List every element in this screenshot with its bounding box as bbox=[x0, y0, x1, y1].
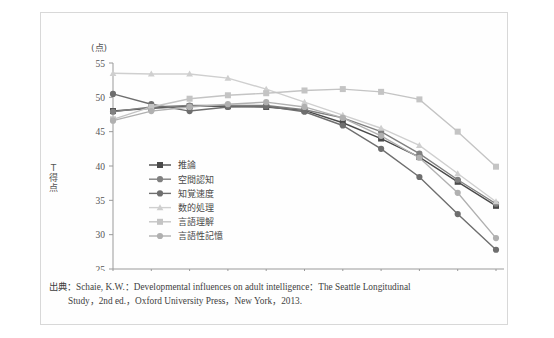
y-tick-label: 55 bbox=[96, 59, 106, 69]
legend-label-1: 空間認知 bbox=[178, 174, 214, 185]
legend-label-0: 推論 bbox=[178, 159, 196, 170]
y-axis-unit-label: (点) bbox=[91, 43, 107, 53]
data-point bbox=[493, 164, 499, 170]
line-chart: 253035404550552532394653606774818895 推論空… bbox=[41, 13, 509, 271]
series-line-1 bbox=[113, 106, 496, 204]
data-point bbox=[455, 211, 461, 217]
y-tick-label: 45 bbox=[96, 127, 106, 137]
legend-label-4: 言語理解 bbox=[178, 216, 214, 227]
y-tick-label: 50 bbox=[96, 93, 106, 103]
y-tick-label: 25 bbox=[96, 265, 106, 272]
data-point bbox=[493, 235, 499, 241]
data-point bbox=[301, 104, 307, 110]
data-point bbox=[416, 96, 422, 102]
data-point bbox=[187, 96, 193, 102]
legend-item-1[interactable]: 空間認知 bbox=[149, 174, 214, 185]
legend-item-2[interactable]: 知覚速度 bbox=[149, 188, 214, 199]
data-point bbox=[110, 118, 116, 124]
data-point bbox=[340, 115, 346, 121]
data-point bbox=[263, 90, 269, 96]
legend-marker-5 bbox=[157, 233, 163, 239]
data-point bbox=[110, 91, 116, 97]
source-line-1: 出典：Schaie, K.W.：Developmental influences… bbox=[49, 282, 411, 292]
plot-area: 253035404550552532394653606774818895 推論空… bbox=[41, 13, 509, 271]
data-point bbox=[416, 174, 422, 180]
legend-item-4[interactable]: 言語理解 bbox=[149, 216, 214, 227]
data-point bbox=[263, 99, 269, 105]
legend-item-5[interactable]: 言語性記憶 bbox=[149, 230, 223, 241]
data-point bbox=[455, 129, 461, 135]
data-point bbox=[378, 133, 384, 139]
data-point bbox=[493, 247, 499, 253]
figure-container: T 得 点 2530354045505525323946536067748188… bbox=[40, 12, 508, 325]
legend-item-0[interactable]: 推論 bbox=[149, 159, 196, 170]
data-point bbox=[378, 146, 384, 152]
axis-labels-group: (点)(歳)年齢 bbox=[91, 43, 509, 271]
legend-marker-4 bbox=[157, 219, 163, 225]
y-tick-label: 40 bbox=[96, 162, 106, 172]
legend-marker-0 bbox=[157, 162, 163, 168]
data-point bbox=[148, 108, 154, 114]
data-point bbox=[455, 190, 461, 196]
series-line-2 bbox=[113, 94, 496, 250]
legend-marker-1 bbox=[157, 176, 163, 182]
data-point bbox=[110, 109, 116, 115]
data-point bbox=[340, 86, 346, 92]
data-point bbox=[225, 92, 231, 98]
data-point bbox=[187, 104, 193, 110]
chart-legend: 推論空間認知知覚速度数的処理言語理解言語性記憶 bbox=[149, 159, 223, 241]
data-point bbox=[302, 87, 308, 93]
series-line-0 bbox=[113, 106, 496, 206]
y-tick-label: 30 bbox=[96, 230, 106, 240]
legend-item-3[interactable]: 数的処理 bbox=[149, 202, 214, 213]
data-point bbox=[378, 89, 384, 95]
data-point bbox=[416, 155, 422, 161]
legend-label-5: 言語性記憶 bbox=[178, 230, 223, 241]
source-citation: 出典：Schaie, K.W.：Developmental influences… bbox=[49, 281, 501, 308]
source-line-2: Study，2nd ed.，Oxford University Press，Ne… bbox=[49, 295, 501, 309]
series-4 bbox=[110, 86, 499, 170]
data-point bbox=[340, 122, 346, 128]
data-point bbox=[455, 177, 461, 183]
legend-marker-2 bbox=[157, 190, 163, 196]
series-2 bbox=[110, 91, 499, 253]
legend-label-3: 数的処理 bbox=[178, 202, 214, 213]
y-tick-label: 35 bbox=[96, 196, 106, 206]
legend-label-2: 知覚速度 bbox=[178, 188, 214, 199]
series-group bbox=[110, 70, 500, 253]
data-point bbox=[225, 101, 231, 107]
